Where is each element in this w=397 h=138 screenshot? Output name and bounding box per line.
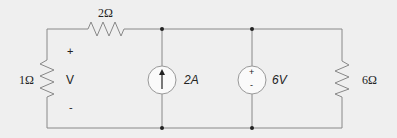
resistor-6ohm-label: 6Ω (362, 74, 377, 86)
resistor-2ohm-icon (88, 22, 124, 36)
node-dot (160, 27, 164, 31)
circuit-schematic (0, 0, 397, 138)
voltage-label: V (66, 74, 74, 86)
voltage-source-minus: - (250, 81, 253, 90)
node-dot (250, 126, 254, 130)
node-dot (250, 27, 254, 31)
node-dot (160, 126, 164, 130)
voltage-source-label: 6V (272, 74, 287, 86)
resistor-6ohm-icon (335, 29, 349, 128)
circuit-diagram: 2Ω 1Ω 6Ω + V - 2A 6V + - (0, 0, 397, 138)
current-source-label: 2A (184, 74, 199, 86)
voltage-plus-marker: + (67, 46, 73, 57)
resistor-1ohm-icon (40, 60, 54, 97)
voltage-source-plus: + (249, 68, 254, 77)
voltage-minus-marker: - (69, 102, 73, 113)
resistor-2ohm-label: 2Ω (98, 7, 113, 19)
resistor-1ohm-label: 1Ω (19, 74, 34, 86)
wire-left-bottom (47, 97, 342, 128)
